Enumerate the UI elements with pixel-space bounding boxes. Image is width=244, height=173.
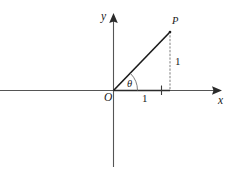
theta-angle-label: θ <box>127 79 132 90</box>
point-p-marker <box>169 31 172 34</box>
terminal-ray <box>114 32 171 91</box>
figure-canvas <box>0 0 244 173</box>
horizontal-run-label: 1 <box>142 93 148 104</box>
y-axis-arrowhead <box>109 13 118 23</box>
origin-label: O <box>104 92 112 104</box>
y-axis-label: y <box>101 11 106 23</box>
coordinate-plane-figure: y x O P θ 1 1 <box>0 0 244 173</box>
point-p-label: P <box>172 16 178 27</box>
vertical-rise-label: 1 <box>175 56 181 67</box>
x-axis-label: x <box>218 95 223 107</box>
